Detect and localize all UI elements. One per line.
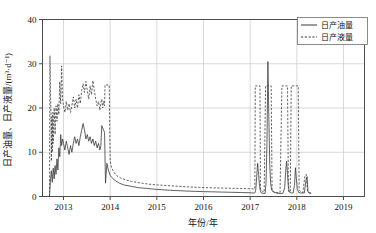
x-axis-title: 年份/年	[188, 217, 218, 228]
x-tick-label: 2015	[148, 202, 167, 212]
y-tick-label: 40	[28, 15, 38, 25]
chart-container: 2013201420152016201720182019 010203040 年…	[0, 0, 376, 233]
x-tick-label: 2018	[288, 202, 307, 212]
x-tick-label: 2017	[241, 202, 260, 212]
legend-entry-label-oil: 日产油量	[321, 20, 353, 30]
y-tick-label: 10	[28, 147, 38, 157]
y-tick-label: 30	[28, 59, 38, 69]
x-tick-label: 2019	[335, 202, 354, 212]
x-tick-label: 2016	[195, 202, 214, 212]
legend-entry-label-liquid: 日产液量	[321, 32, 353, 42]
x-tick-label: 2013	[55, 202, 74, 212]
production-rate-line-chart: 2013201420152016201720182019 010203040 年…	[0, 0, 376, 233]
y-axis-title: 日产油量、日产液量/(m³·d⁻¹)	[2, 53, 13, 167]
x-tick-label: 2014	[101, 202, 120, 212]
y-tick-label: 0	[32, 192, 37, 202]
y-tick-label: 20	[28, 103, 38, 113]
chart-legend[interactable]: 日产油量 日产液量	[298, 18, 368, 45]
